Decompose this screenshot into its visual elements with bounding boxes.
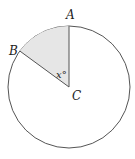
label-b: B <box>8 44 18 58</box>
label-c: C <box>72 89 81 103</box>
label-angle-x: x° <box>56 69 67 80</box>
label-a: A <box>65 8 75 22</box>
circle-diagram: A B C x° <box>0 0 135 159</box>
